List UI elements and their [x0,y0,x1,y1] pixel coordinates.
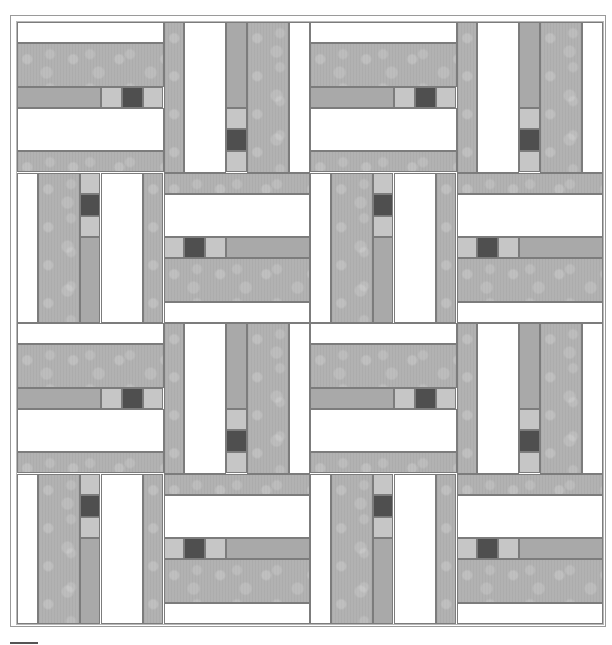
strip-medium [80,237,101,323]
strip-mottled [457,258,604,302]
strip-medium [226,323,247,409]
strip-white [477,22,519,173]
strip-mottled [17,43,164,87]
square-light [498,237,519,258]
quilt-block [457,22,604,173]
strip-mottled [143,173,164,324]
strip-white [164,603,311,624]
strip-white [394,474,436,625]
strip-white [394,173,436,324]
strip-mottled [457,22,478,173]
square-light [80,474,101,496]
scale-mark [10,642,38,644]
square-dark [184,237,205,258]
square-light [519,452,540,474]
quilt-block [164,22,311,173]
square-light [436,87,457,108]
strip-white [310,323,457,344]
strip-white [17,323,164,344]
strip-medium [226,22,247,108]
square-light [101,87,122,108]
square-light [226,452,247,474]
square-dark [477,538,498,559]
square-dark [122,388,143,409]
quilt-block [17,323,164,474]
square-light [519,151,540,173]
square-light [164,538,185,559]
strip-mottled [436,173,457,324]
strip-white [457,495,604,539]
strip-white [310,173,331,324]
strip-white [457,603,604,624]
square-dark [373,495,394,517]
strip-mottled [247,323,289,474]
quilt-block [310,323,457,474]
strip-mottled [436,474,457,625]
square-light [519,108,540,130]
square-light [457,538,478,559]
strip-mottled [457,474,604,495]
strip-white [582,22,603,173]
square-light [80,517,101,539]
square-light [164,237,185,258]
strip-white [457,302,604,323]
strip-medium [373,237,394,323]
strip-mottled [17,151,164,172]
strip-medium [519,323,540,409]
square-dark [519,129,540,151]
strip-mottled [38,173,80,324]
quilt-inner-border [16,21,604,625]
square-light [394,388,415,409]
strip-mottled [457,559,604,603]
strip-medium [310,388,394,409]
strip-white [17,173,38,324]
strip-mottled [38,474,80,625]
strip-white [164,194,311,238]
strip-mottled [164,173,311,194]
quilt-block [17,474,164,625]
strip-white [310,409,457,453]
strip-mottled [310,151,457,172]
strip-medium [519,237,603,258]
strip-mottled [164,258,311,302]
quilt-block [164,323,311,474]
strip-white [17,474,38,625]
strip-medium [226,237,310,258]
square-light [519,409,540,431]
strip-white [164,495,311,539]
strip-white [164,302,311,323]
quilt-block [164,173,311,324]
strip-white [457,194,604,238]
quilt-block [310,474,457,625]
strip-mottled [17,452,164,473]
strip-white [582,323,603,474]
strip-mottled [310,344,457,388]
square-dark [373,194,394,216]
square-dark [184,538,205,559]
square-dark [226,129,247,151]
quilt-block [17,22,164,173]
quilt-block [457,323,604,474]
strip-white [289,323,310,474]
square-light [373,474,394,496]
square-dark [415,87,436,108]
square-dark [80,495,101,517]
strip-mottled [331,474,373,625]
quilt-block [164,474,311,625]
strip-mottled [457,323,478,474]
strip-white [310,474,331,625]
square-light [436,388,457,409]
strip-mottled [164,22,185,173]
strip-white [184,323,226,474]
strip-mottled [457,173,604,194]
strip-mottled [143,474,164,625]
quilt-diagram [10,15,606,627]
square-light [205,237,226,258]
square-light [373,173,394,195]
strip-mottled [331,173,373,324]
strip-medium [310,87,394,108]
square-dark [519,430,540,452]
strip-white [101,173,143,324]
strip-white [17,108,164,152]
square-light [373,216,394,238]
